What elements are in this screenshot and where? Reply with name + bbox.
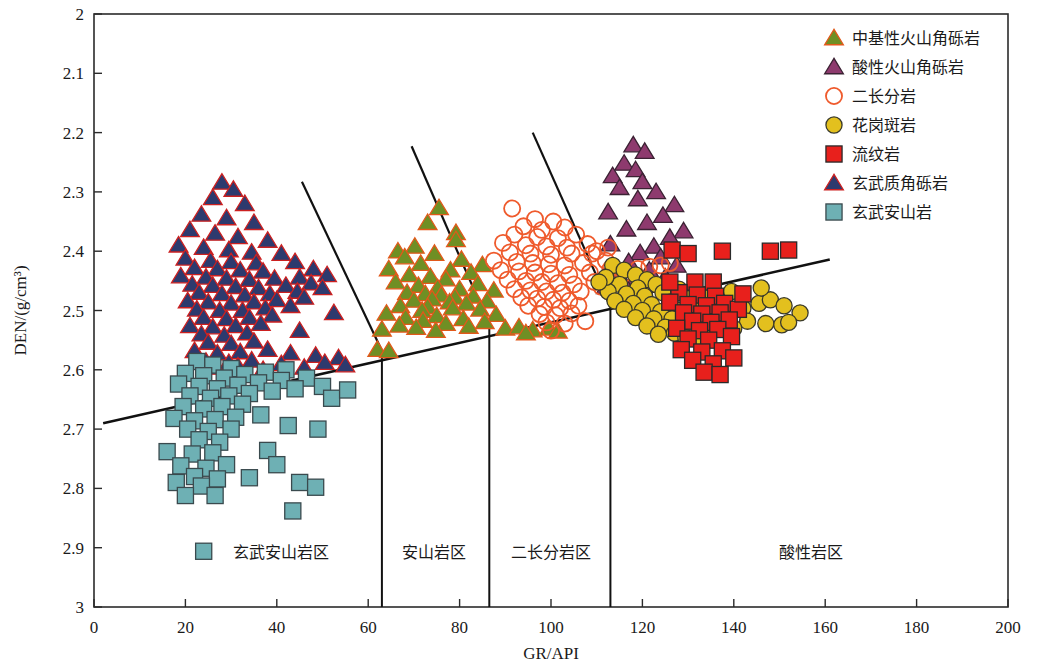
data-point [209,471,225,487]
data-point [714,243,730,259]
data-point [650,326,666,342]
data-point [712,366,728,382]
data-point [664,242,680,258]
legend-item-0[interactable]: 中基性火山角砾岩 [818,25,1014,51]
data-point [310,421,326,437]
data-point [781,314,797,330]
data-point [253,407,269,423]
x-tick-label: 60 [360,618,377,637]
x-tick-label: 160 [812,618,838,637]
legend-label: 中基性火山角砾岩 [852,29,980,48]
legend-item-hit[interactable] [818,112,1014,138]
legend-item-1[interactable]: 酸性火山角砾岩 [818,54,1014,80]
legend-marker-icon [826,204,842,220]
data-point [726,350,742,366]
region-label-2: 二长分岩区 [511,543,591,562]
data-point [269,457,285,473]
data-point [308,479,324,495]
legend-marker-icon [826,146,842,162]
x-tick-label: 120 [630,618,656,637]
y-tick-label: 2.7 [63,420,85,439]
y-tick-label: 2.9 [63,539,84,558]
x-tick-label: 0 [90,618,99,637]
y-tick-label: 3 [76,598,85,617]
scatter-chart-figure: 020406080100120140160180200 22.12.22.32.… [0,0,1047,663]
legend-label: 花岗斑岩 [852,116,916,135]
data-point [196,543,212,559]
data-point [735,286,751,302]
data-point [207,487,223,503]
y-tick-label: 2.4 [63,242,85,261]
x-tick-label: 200 [995,618,1021,637]
data-point [285,503,301,519]
x-tick-label: 40 [268,618,285,637]
data-point [758,315,774,331]
x-tick-label: 20 [177,618,194,637]
y-tick-label: 2.5 [63,302,84,321]
legend-label: 玄武安山岩 [852,203,932,222]
legend-label: 流纹岩 [852,145,900,164]
legend-marker-icon [826,117,842,133]
y-tick-label: 2.8 [63,479,84,498]
chart-canvas: 020406080100120140160180200 22.12.22.32.… [0,0,1047,663]
data-point [762,243,778,259]
region-label-0: 玄武安山岩区 [233,543,329,562]
legend-label: 酸性火山角砾岩 [852,58,964,77]
legend-item-3[interactable]: 花岗斑岩 [818,112,1014,138]
data-point [776,298,792,314]
data-point [340,382,356,398]
data-point [696,364,712,380]
y-tick-label: 2 [76,5,85,24]
data-point [781,242,797,258]
x-tick-label: 140 [721,618,747,637]
data-point [264,383,280,399]
y-axis-title: DEN/(g/cm³) [11,265,30,355]
y-tick-label: 2.2 [63,124,84,143]
x-tick-label: 100 [538,618,564,637]
legend-item-5[interactable]: 玄武质角砾岩 [818,170,1014,196]
legend-item-6[interactable]: 玄武安山岩 [818,199,1014,225]
y-tick-label: 2.3 [63,183,84,202]
data-point [324,390,340,406]
legend-item-2[interactable]: 二长分岩 [818,83,1014,109]
legend-item-hit[interactable] [818,83,1014,109]
legend[interactable]: 中基性火山角砾岩酸性火山角砾岩二长分岩花岗斑岩流纹岩玄武质角砾岩玄武安山岩 [818,25,1014,225]
legend-item-hit[interactable] [818,141,1014,167]
data-point [292,474,308,490]
x-tick-label: 180 [904,618,930,637]
data-point [680,246,696,262]
x-tick-label: 80 [451,618,468,637]
legend-label: 二长分岩 [852,87,916,106]
region-label-1: 安山岩区 [402,543,466,562]
data-point [591,274,607,290]
data-point [241,470,257,486]
y-tick-label: 2.1 [63,64,84,83]
region-label-3: 酸性岩区 [779,543,843,562]
data-point [753,280,769,296]
x-axis-title: GR/API [523,644,579,663]
data-point [662,274,678,290]
data-point [287,381,303,397]
data-point [177,487,193,503]
legend-label: 玄武质角砾岩 [852,174,948,193]
data-point [280,417,296,433]
y-tick-label: 2.6 [63,361,84,380]
legend-item-4[interactable]: 流纹岩 [818,141,1014,167]
